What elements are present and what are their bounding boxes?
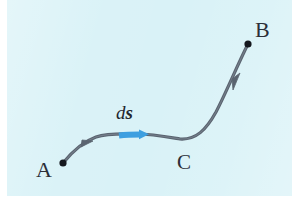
point-marker-icon-b xyxy=(244,40,251,47)
label-point-a: A xyxy=(36,159,52,181)
vector-arrow-icon-head xyxy=(139,130,149,140)
label-element-ds-d: d xyxy=(116,102,126,123)
point-marker-icon-a xyxy=(59,159,66,166)
label-point-b: B xyxy=(255,19,270,41)
label-curve-c: C xyxy=(177,152,191,173)
vector-arrow-icon-shaft xyxy=(119,134,140,135)
arrowhead-icon-lower xyxy=(81,140,93,147)
label-element-ds-s: s xyxy=(126,102,133,123)
path-curve-halo xyxy=(63,44,248,163)
label-element-ds: ds xyxy=(116,103,133,122)
line-integral-figure: A B C ds xyxy=(0,0,305,209)
